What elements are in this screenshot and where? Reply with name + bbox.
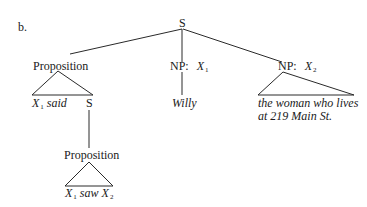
embedded-s-node: S bbox=[86, 96, 93, 110]
leaf-woman-line-1: the woman who lives bbox=[258, 96, 359, 110]
leaf-willy: Willy bbox=[172, 96, 197, 110]
np-x2-triangle bbox=[258, 72, 354, 95]
leaf-x1-saw-x2: X1 saw X2 bbox=[64, 186, 114, 201]
leaf-x1-said: X1 said bbox=[31, 96, 68, 111]
embedded-proposition-triangle bbox=[65, 162, 113, 186]
proposition-triangle bbox=[32, 71, 93, 95]
leaf-woman-line-2: at 219 Main St. bbox=[258, 109, 332, 123]
np-x1-node: NP:X1 bbox=[170, 59, 209, 74]
root-node-s: S bbox=[179, 16, 186, 30]
embedded-proposition-node: Proposition bbox=[64, 148, 119, 162]
syntax-tree-diagram: b. S Proposition X1 said S Proposition X… bbox=[0, 0, 367, 207]
edge-root-to-np-x2 bbox=[183, 29, 282, 62]
proposition-node: Proposition bbox=[33, 59, 88, 73]
edge-root-to-proposition bbox=[70, 29, 182, 54]
figure-label: b. bbox=[18, 20, 27, 34]
np-x2-node: NP:X2 bbox=[278, 59, 317, 74]
